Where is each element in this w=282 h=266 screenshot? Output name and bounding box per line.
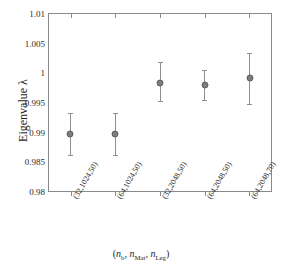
error-bar-cap	[68, 113, 73, 114]
y-tick-label: 0.995	[25, 98, 45, 108]
data-point-marker	[157, 79, 164, 86]
error-bar-cap	[202, 100, 207, 101]
x-axis-title: (nb, nMat, nLeg)	[0, 248, 282, 261]
data-point-marker	[201, 81, 208, 88]
error-bar-cap	[68, 155, 73, 156]
y-tick-label: 1	[41, 68, 46, 78]
data-point-marker	[67, 131, 74, 138]
error-bar-cap	[158, 101, 163, 102]
y-tick-label: 0.99	[29, 128, 45, 138]
error-bar-cap	[202, 70, 207, 71]
x-axis-title-n3-sub: Leg	[155, 254, 166, 261]
x-tick-mark-top	[160, 14, 161, 18]
y-tick-label: 1.01	[29, 9, 45, 19]
y-tick-label: 0.98	[29, 187, 45, 197]
error-bar-cap	[247, 104, 252, 105]
error-bar-cap	[113, 113, 118, 114]
y-tick-label: 1.005	[25, 39, 45, 49]
x-axis-title-n2-sub: Mat	[134, 254, 145, 261]
data-point-marker	[112, 131, 119, 138]
data-point-marker	[246, 75, 253, 82]
figure-canvas: Eigenvalue λ 0.98 0.985 0.99 0.995 1 1.0…	[0, 0, 282, 266]
y-axis-tick-labels: 0.98 0.985 0.99 0.995 1 1.005 1.01	[0, 0, 45, 266]
x-tick-mark-top	[115, 14, 116, 18]
error-bar-cap	[113, 155, 118, 156]
y-tick-label: 0.985	[25, 157, 45, 167]
error-bar-cap	[247, 53, 252, 54]
x-tick-mark-top	[249, 14, 250, 18]
x-tick-mark-top	[71, 14, 72, 18]
plot-area	[48, 13, 272, 192]
x-axis-title-paren-close: )	[166, 248, 169, 259]
error-bar-cap	[158, 62, 163, 63]
x-tick-mark-top	[205, 14, 206, 18]
